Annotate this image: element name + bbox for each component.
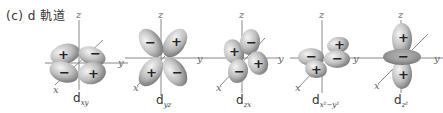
z-axis-label: z	[397, 9, 404, 20]
minus-sign: −	[398, 49, 409, 64]
orbital-dxy: z y x + − − + dxy	[0, 0, 100, 113]
plus-sign: +	[88, 66, 99, 81]
x-axis-label: x	[295, 82, 301, 93]
plus-sign: +	[58, 47, 69, 62]
minus-sign: −	[172, 65, 183, 80]
orbital-label-dzx: dzx	[236, 93, 251, 109]
y-axis-label: y	[352, 53, 359, 64]
minus-sign: −	[332, 51, 343, 66]
orbital-dz2: z y x + − + dz²	[370, 0, 443, 113]
orbital-label-dz2: dz²	[394, 93, 408, 109]
minus-sign: −	[234, 64, 245, 79]
minus-sign: −	[90, 46, 101, 61]
orbital-dyz: z y x − + + − dyz	[125, 0, 220, 113]
minus-sign: −	[59, 65, 70, 80]
x-axis-label: x	[216, 82, 222, 93]
plus-sign: +	[229, 44, 240, 59]
plus-sign: +	[334, 37, 345, 52]
y-axis-label: y	[277, 53, 284, 64]
orbital-dx2-y2: z y x + − − + dx²−y²	[290, 0, 380, 113]
orbital-label-dxy: dxy	[73, 91, 89, 107]
plus-sign: +	[398, 30, 409, 45]
plus-sign: +	[311, 62, 322, 77]
z-axis-label: z	[75, 9, 82, 20]
x-axis-label: x	[133, 82, 139, 93]
orbital-label-dyz: dyz	[156, 93, 171, 109]
z-axis-label: z	[157, 9, 164, 20]
orbital-dzx: z y x + − − + dzx	[210, 0, 300, 113]
plus-sign: +	[171, 34, 182, 49]
orbital-label-dx2-y2: dx²−y²	[312, 93, 339, 109]
x-axis-label: x	[374, 80, 380, 91]
minus-sign: −	[145, 35, 156, 50]
minus-sign: −	[246, 35, 257, 50]
plus-sign: +	[253, 56, 264, 71]
z-axis-label: z	[238, 9, 245, 20]
y-axis-label: y	[433, 53, 440, 64]
plus-sign: +	[398, 67, 409, 82]
plus-sign: +	[146, 65, 157, 80]
y-axis-label: y	[117, 57, 124, 68]
x-axis-label: x	[53, 84, 59, 95]
y-axis-label: y	[196, 53, 203, 64]
z-axis-label: z	[318, 9, 325, 20]
